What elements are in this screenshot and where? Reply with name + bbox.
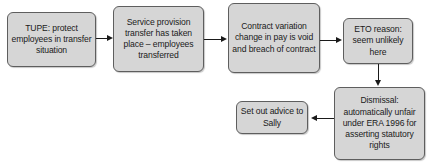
- flow-node-tupe: TUPE: protect employees in transfer situ…: [7, 12, 96, 67]
- arrow-left-icon: [311, 115, 317, 121]
- connector-dismissal-to-advice: [317, 118, 334, 119]
- arrow-right-icon: [107, 35, 113, 41]
- flow-node-eto-reason: ETO reason: seem unlikely here: [343, 18, 413, 64]
- arrow-right-icon: [221, 36, 227, 42]
- flowchart-diagram: TUPE: protect employees in transfer situ…: [0, 0, 429, 163]
- flow-node-tupe-label: TUPE: protect employees in transfer situ…: [11, 23, 92, 57]
- flow-node-dismissal-label: Dismissal: automatically unfair under ER…: [338, 95, 421, 151]
- connector-eto-to-dismissal: [378, 64, 379, 81]
- flow-node-service-provision-transfer-label: Service provision transfer has taken pla…: [117, 17, 200, 62]
- arrow-down-icon: [375, 80, 381, 86]
- flow-node-dismissal: Dismissal: automatically unfair under ER…: [334, 87, 425, 160]
- connector-service-to-contract: [204, 39, 222, 40]
- flow-node-contract-variation: Contract variation change in pay is void…: [228, 3, 320, 73]
- flow-node-eto-reason-label: ETO reason: seem unlikely here: [347, 24, 409, 58]
- arrow-right-icon: [336, 37, 342, 43]
- flow-node-service-provision-transfer: Service provision transfer has taken pla…: [113, 6, 204, 72]
- connector-contract-to-eto: [320, 40, 337, 41]
- flow-node-set-out-advice-label: Set out advice to Sally: [240, 106, 304, 128]
- flow-node-set-out-advice: Set out advice to Sally: [236, 101, 308, 134]
- flow-node-contract-variation-label: Contract variation change in pay is void…: [232, 21, 316, 55]
